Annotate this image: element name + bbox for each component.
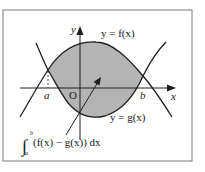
origin-label: O <box>69 89 77 101</box>
g-curve-label: y = g(x) <box>110 111 146 124</box>
b-label: b <box>140 89 146 101</box>
integrand-label: (f(x) − g(x)) dx <box>33 136 101 149</box>
integral-lower-limit: a <box>25 150 28 156</box>
a-label: a <box>44 89 50 101</box>
f-curve-label: y = f(x) <box>101 27 135 40</box>
area-between-curves-diagram: y x O a b y = f(x) y = g(x) ∫ b a (f(x) … <box>0 0 205 172</box>
y-axis-label: y <box>70 23 76 35</box>
x-axis-label: x <box>170 90 176 102</box>
